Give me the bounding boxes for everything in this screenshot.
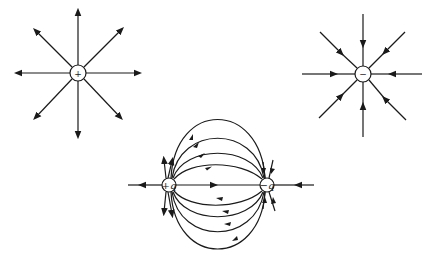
- field-lines-figure: + −: [0, 0, 434, 271]
- negative-charge-diagram: −: [302, 14, 422, 137]
- plus-sign: +: [74, 69, 82, 79]
- dipole-positive-label: +q: [162, 180, 177, 191]
- minus-sign: −: [359, 69, 367, 79]
- dipole-negative-label: −q: [260, 180, 275, 191]
- positive-charge-diagram: +: [18, 12, 138, 135]
- dipole-diagram: +q −q: [128, 120, 314, 250]
